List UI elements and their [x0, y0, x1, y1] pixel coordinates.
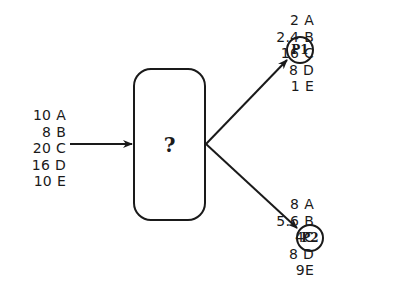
- unknown-process-box: ?: [133, 68, 206, 221]
- feed-row: 8B: [14, 124, 66, 141]
- p2-row: 5.6B: [226, 213, 314, 230]
- p1-row: 16C: [226, 45, 314, 62]
- p2-row: 4C: [226, 229, 314, 246]
- p2-row: 8D: [226, 246, 314, 263]
- process-label: ?: [164, 133, 176, 157]
- p1-row: 2A: [226, 12, 314, 29]
- p1-row: 2.4B: [226, 29, 314, 46]
- p2-row: 8A: [226, 196, 314, 213]
- p1-row: 8D: [226, 62, 314, 79]
- p2-composition: 8A 5.6B 4C 8D 9E: [226, 196, 314, 279]
- feed-row: 20C: [14, 140, 66, 157]
- feed-row: 10E: [14, 173, 66, 190]
- feed-composition: 10A 8B 20C 16D 10E: [14, 107, 66, 190]
- p1-row: 1E: [226, 78, 314, 95]
- feed-row: 16D: [14, 157, 66, 174]
- p1-composition: 2A 2.4B 16C 8D 1E: [226, 12, 314, 95]
- feed-row: 10A: [14, 107, 66, 124]
- p2-row: 9E: [226, 262, 314, 279]
